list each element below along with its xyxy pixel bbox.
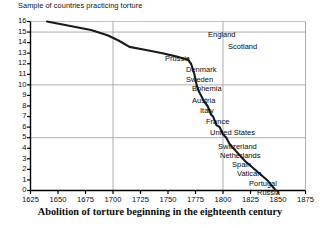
x-tick-label: 1775 — [181, 196, 211, 204]
y-tick-label: 12 — [11, 59, 27, 67]
country-label: Prussia — [165, 55, 190, 63]
country-label: Portugal — [249, 180, 277, 188]
y-tick-label: 5 — [11, 133, 27, 141]
y-tick-label: 16 — [11, 17, 27, 25]
x-tick-label: 1875 — [291, 196, 320, 204]
x-tick-label: 1800 — [208, 196, 238, 204]
chart-container: Sample of countries practicing torture 0… — [0, 0, 320, 228]
country-label: Russia — [257, 189, 280, 197]
y-tick-label: 4 — [11, 144, 27, 152]
y-tick-label: 10 — [11, 81, 27, 89]
country-label: Bohemia — [192, 85, 222, 93]
y-tick-label: 14 — [11, 38, 27, 46]
chart-caption: Abolition of torture beginning in the ei… — [0, 206, 320, 217]
country-label: France — [206, 118, 229, 126]
country-label: Spain — [232, 161, 251, 169]
x-tick-label: 1700 — [98, 196, 128, 204]
x-tick-label: 1725 — [126, 196, 156, 204]
tick-marks-group — [27, 22, 306, 195]
y-tick-label: 15 — [11, 28, 27, 36]
y-tick-label: 1 — [11, 176, 27, 184]
country-label: Denmark — [186, 66, 216, 74]
gridlines-group — [31, 22, 306, 191]
country-label: Sweden — [186, 76, 213, 84]
country-label: England — [208, 31, 236, 39]
y-tick-label: 13 — [11, 49, 27, 57]
y-tick-label: 7 — [11, 112, 27, 120]
country-label: Italy — [200, 107, 214, 115]
country-label: Switzerland — [218, 143, 257, 151]
axes-group — [31, 22, 306, 191]
y-tick-label: 8 — [11, 102, 27, 110]
country-label: Netherlands — [220, 152, 260, 160]
x-tick-label: 1650 — [43, 196, 73, 204]
y-tick-label: 9 — [11, 91, 27, 99]
x-tick-label: 1675 — [71, 196, 101, 204]
x-tick-label: 1750 — [153, 196, 183, 204]
x-tick-label: 1625 — [16, 196, 46, 204]
y-tick-label: 2 — [11, 165, 27, 173]
country-label: United States — [210, 129, 255, 137]
y-tick-label: 11 — [11, 70, 27, 78]
country-label: Scotland — [228, 43, 257, 51]
country-label: Austria — [192, 97, 215, 105]
country-label: Vatican — [237, 170, 261, 178]
y-tick-label: 3 — [11, 155, 27, 163]
y-tick-label: 0 — [11, 186, 27, 194]
y-tick-label: 6 — [11, 123, 27, 131]
